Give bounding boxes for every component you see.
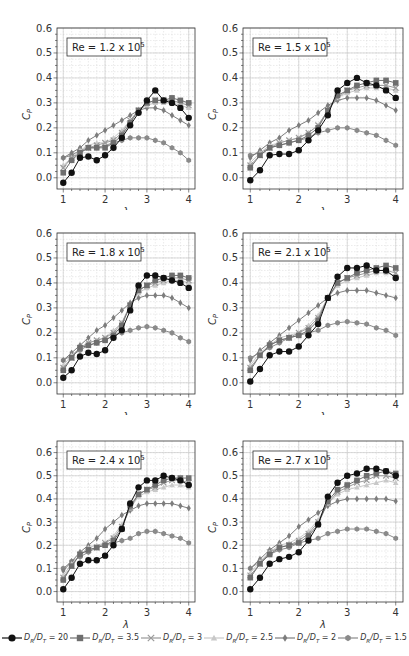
- square-marker-icon: [69, 563, 75, 569]
- hexagon-marker-icon: [345, 319, 350, 325]
- svg-text:Re = 1.5 x 105: Re = 1.5 x 105: [258, 41, 331, 53]
- hexagon-marker-icon: [316, 328, 321, 334]
- square-marker-icon: [364, 473, 370, 479]
- square-marker-icon: [286, 140, 292, 146]
- circle-marker-icon: [102, 347, 108, 353]
- circle-marker-icon: [177, 477, 183, 483]
- circle-marker-icon: [68, 574, 74, 580]
- square-marker-icon: [344, 275, 350, 281]
- circle-marker-icon: [286, 348, 292, 354]
- circle-marker-icon: [305, 537, 311, 543]
- x-tick-label: 2: [102, 607, 108, 618]
- y-tick-label: 0.2: [36, 327, 52, 338]
- legend-line-icon: [70, 633, 90, 643]
- circle-marker-icon: [354, 265, 360, 271]
- hexagon-marker-icon: [355, 526, 360, 532]
- hexagon-marker-icon: [161, 531, 166, 537]
- circle-marker-icon: [286, 151, 292, 157]
- diamond-marker-icon: [345, 496, 349, 503]
- circle-marker-icon: [77, 155, 83, 161]
- x-tick-label: 4: [393, 607, 399, 618]
- circle-marker-icon: [344, 80, 350, 86]
- circle-marker-icon: [144, 477, 150, 483]
- y-tick-label: 0.4: [222, 493, 238, 504]
- x-tick-label: 3: [344, 194, 350, 205]
- circle-marker-icon: [110, 335, 116, 341]
- diamond-marker-icon: [162, 107, 166, 114]
- chart-svg: 0.00.10.20.30.40.50.61234λCPRe = 1.5 x 1…: [204, 0, 409, 210]
- square-marker-icon: [247, 367, 253, 373]
- circle-marker-icon: [393, 275, 399, 281]
- svg-text:Re = 2.7 x 105: Re = 2.7 x 105: [258, 454, 331, 466]
- diamond-marker-icon: [120, 512, 124, 519]
- chart-svg: 0.00.10.20.30.40.50.61234λCPRe = 1.8 x 1…: [0, 205, 204, 415]
- diamond-marker-icon: [355, 95, 359, 102]
- y-tick-label: 0.0: [222, 172, 238, 183]
- circle-marker-icon: [186, 115, 192, 121]
- x-tick-label: 4: [393, 194, 399, 205]
- circle-marker-icon: [354, 470, 360, 476]
- circle-marker-icon: [68, 367, 74, 373]
- y-axis-label: CP: [21, 108, 34, 120]
- circle-marker-icon: [177, 105, 183, 111]
- square-marker-icon: [186, 275, 192, 281]
- square-marker-icon: [344, 88, 350, 94]
- circle-marker-icon: [247, 378, 253, 384]
- circle-marker-icon: [325, 295, 331, 301]
- hexagon-marker-icon: [170, 533, 175, 539]
- circle-marker-icon: [257, 574, 263, 580]
- legend-label: DR/DT = 2.5: [226, 633, 273, 644]
- panel-re-1-2: 0.00.10.20.30.40.50.61234λCPRe = 1.2 x 1…: [0, 0, 204, 210]
- y-tick-label: 0.5: [222, 470, 238, 481]
- circle-marker-icon: [60, 180, 66, 186]
- diamond-marker-icon: [374, 290, 378, 297]
- x-tick-label: 2: [296, 399, 302, 410]
- circle-marker-icon: [334, 479, 340, 485]
- y-tick-label: 0.4: [36, 493, 52, 504]
- circle-marker-icon: [296, 343, 302, 349]
- circle-marker-icon: [144, 272, 150, 278]
- circle-marker-icon: [119, 327, 125, 333]
- circle-marker-icon: [276, 556, 282, 562]
- y-tick-label: 0.2: [222, 540, 238, 551]
- chart-svg: 0.00.10.20.30.40.50.61234λCPRe = 2.1 x 1…: [204, 205, 409, 415]
- diamond-marker-icon: [365, 95, 369, 102]
- hexagon-marker-icon: [144, 529, 149, 535]
- circle-marker-icon: [102, 552, 108, 558]
- hexagon-marker-icon: [335, 529, 340, 535]
- y-tick-label: 0.6: [222, 23, 238, 34]
- y-tick-label: 0.6: [222, 447, 238, 458]
- legend-label: DR/DT = 2: [297, 633, 336, 644]
- square-marker-icon: [247, 165, 253, 171]
- circle-marker-icon: [77, 561, 83, 567]
- circle-marker-icon: [334, 87, 340, 93]
- circle-marker-icon: [344, 473, 350, 479]
- circle-marker-icon: [135, 282, 141, 288]
- square-marker-icon: [393, 80, 399, 86]
- square-marker-icon: [247, 575, 253, 581]
- circle-marker-icon: [127, 307, 133, 313]
- diamond-marker-icon: [162, 292, 166, 299]
- y-tick-label: 0.4: [36, 72, 52, 83]
- circle-marker-icon: [305, 137, 311, 143]
- hexagon-marker-icon: [178, 535, 183, 541]
- x-tick-label: 1: [247, 607, 253, 618]
- diamond-marker-icon: [178, 300, 182, 307]
- circle-marker-icon: [373, 267, 379, 273]
- square-marker-icon: [86, 547, 92, 553]
- hexagon-marker-icon: [316, 535, 321, 541]
- y-tick-label: 0.0: [36, 586, 52, 597]
- x-tick-label: 3: [144, 399, 150, 410]
- panel-re-1-8: 0.00.10.20.30.40.50.61234λCPRe = 1.8 x 1…: [0, 205, 204, 415]
- square-marker-icon: [94, 545, 100, 551]
- circle-marker-icon: [325, 493, 331, 499]
- legend-item: DR/DT = 3.5: [70, 633, 139, 644]
- square-marker-icon: [186, 100, 192, 106]
- circle-marker-icon: [373, 82, 379, 88]
- y-tick-label: 0.2: [222, 327, 238, 338]
- y-tick-label: 0.2: [36, 540, 52, 551]
- circle-marker-icon: [94, 157, 100, 163]
- circle-marker-icon: [373, 466, 379, 472]
- circle-marker-icon: [393, 95, 399, 101]
- legend-item: DR/DT = 3: [141, 633, 202, 644]
